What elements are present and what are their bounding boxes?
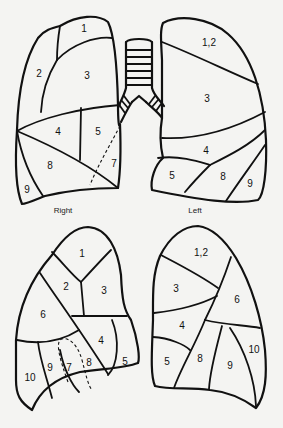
segment-label: 2 <box>36 68 42 79</box>
segment-label: 8 <box>86 357 92 368</box>
caption-left: Left <box>188 206 202 215</box>
lower-right-lung: 1 2 3 6 4 5 10 9 7 8 <box>16 227 139 410</box>
segment-label: 1,2 <box>202 37 216 48</box>
segment-label: 8 <box>47 160 53 171</box>
segment-label: 3 <box>173 283 179 294</box>
segment-label: 9 <box>24 184 30 195</box>
segment-label: 9 <box>47 362 53 373</box>
segment-label: 4 <box>179 320 185 331</box>
segment-label: 8 <box>197 353 203 364</box>
segment-label: 1 <box>81 23 87 34</box>
segment-label: 3 <box>101 285 107 296</box>
trachea <box>118 39 164 122</box>
segment-label: 4 <box>98 335 104 346</box>
segment-label: 9 <box>227 360 233 371</box>
segment-label: 1 <box>79 248 85 259</box>
segment-label: 7 <box>111 158 117 169</box>
segment-label: 3 <box>84 70 90 81</box>
segment-label: 5 <box>164 356 170 367</box>
segment-label: 5 <box>95 126 101 137</box>
segment-label: 3 <box>204 93 210 104</box>
segment-label: 8 <box>220 171 226 182</box>
upper-left-lung: 1,2 3 4 5 8 9 <box>152 18 267 202</box>
segment-label: 2 <box>63 281 69 292</box>
segment-label: 10 <box>248 344 260 355</box>
segment-label: 1,2 <box>194 247 208 258</box>
segment-label: 6 <box>234 294 240 305</box>
upper-right-lung: 1 2 3 4 5 7 8 9 <box>16 17 120 204</box>
segment-label: 4 <box>203 145 209 156</box>
segment-label: 5 <box>122 356 128 367</box>
lower-left-lung-outline <box>152 226 266 408</box>
segment-label: 9 <box>247 178 253 189</box>
segment-label: 4 <box>55 126 61 137</box>
lower-left-lung: 1,2 3 6 4 5 8 9 10 <box>152 226 266 408</box>
segment-label: 10 <box>24 372 36 383</box>
caption-right: Right <box>54 206 73 215</box>
segment-label: 6 <box>40 309 46 320</box>
segment-label: 7 <box>66 362 72 373</box>
lung-segments-diagram: 1 2 3 4 5 7 8 9 1,2 3 4 5 8 9 Right Left <box>0 0 283 428</box>
segment-label: 5 <box>169 170 175 181</box>
